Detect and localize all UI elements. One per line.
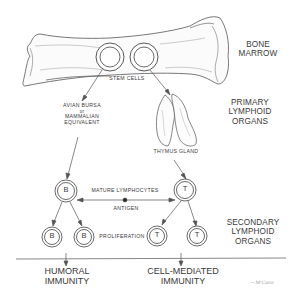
secondary-line2: LYMPHOID xyxy=(222,227,284,236)
artist-signature: → MᶜCann xyxy=(242,280,282,285)
bone-marrow-line2: MARROW xyxy=(236,49,280,58)
secondary-line3: ORGANS xyxy=(222,237,284,246)
antigen-label: ANTIGEN xyxy=(108,206,144,212)
cell-mediated-line1: CELL-MEDIATED xyxy=(144,266,222,276)
secondary-lymphoid-organs-label: SECONDARY LYMPHOID ORGANS xyxy=(222,218,284,246)
stem-cells-label: STEM CELLS xyxy=(100,76,154,82)
cell-letter-b-child-1: B xyxy=(46,232,58,241)
cell-letter-t-child-2: T xyxy=(191,231,203,240)
bursa-line4: EQUIVALENT xyxy=(56,120,108,126)
bone-marrow-label: BONE MARROW xyxy=(236,40,280,59)
mature-lymphocytes-label: MATURE LYMPHOCYTES xyxy=(84,188,166,194)
primary-line1: PRIMARY xyxy=(222,98,278,107)
cell-letter-b-mature: B xyxy=(60,186,72,195)
thymus-illustration xyxy=(156,94,196,146)
cell-letter-t-mature: T xyxy=(179,185,191,194)
primary-lymphoid-organs-label: PRIMARY LYMPHOID ORGANS xyxy=(222,98,278,126)
humoral-line2: IMMUNITY xyxy=(40,276,94,286)
cell-mediated-immunity-label: CELL-MEDIATED IMMUNITY xyxy=(144,266,222,287)
humoral-line1: HUMORAL xyxy=(40,266,94,276)
primary-line3: ORGANS xyxy=(222,117,278,126)
cell-letter-b-child-2: B xyxy=(78,232,90,241)
secondary-line1: SECONDARY xyxy=(222,218,284,227)
stem-cell-right xyxy=(130,43,158,71)
thymus-gland-label: THYMUS GLAND xyxy=(148,149,204,155)
cell-letter-t-child-1: T xyxy=(151,231,163,240)
primary-line2: LYMPHOID xyxy=(222,107,278,116)
bone-marrow-line1: BONE xyxy=(236,40,280,49)
cell-mediated-line2: IMMUNITY xyxy=(144,276,222,286)
bursa-label: AVIAN BURSA or MAMMALIAN EQUIVALENT xyxy=(56,103,108,126)
divider-line xyxy=(16,258,286,259)
proliferation-label: PROLIFERATION xyxy=(96,234,148,240)
humoral-immunity-label: HUMORAL IMMUNITY xyxy=(40,266,94,287)
stem-cell-left xyxy=(96,43,124,71)
